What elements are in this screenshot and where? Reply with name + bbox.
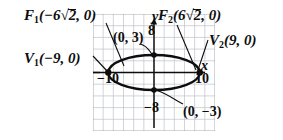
label-focus-2: F2(6√2, 0): [158, 8, 221, 25]
label-focus-1: F1(−6√2, 0): [24, 8, 96, 25]
point-0-3: [151, 52, 157, 58]
label-co-vertex-bottom: (0, −3): [183, 105, 221, 119]
label-vertex-2: V2(9, 0): [209, 33, 256, 50]
x-axis-label: x: [201, 59, 208, 73]
y-axis-label: y: [152, 10, 158, 24]
tick-label-y-neg8: −8: [144, 101, 159, 115]
label-vertex-1: V1(−9, 0): [24, 51, 81, 68]
tick-label-x-10: 10: [195, 72, 209, 86]
point-0-neg3: [151, 87, 157, 93]
tick-label-x-neg10: −10: [97, 72, 119, 86]
label-co-vertex-top: (0, 3): [113, 31, 143, 45]
tick-label-y-8: 8: [148, 24, 155, 38]
